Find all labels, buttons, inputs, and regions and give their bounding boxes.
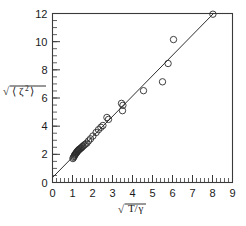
y-tick-label: 4	[41, 120, 47, 132]
x-tick-label: 3	[109, 187, 115, 199]
figure-container: 0123456789 024681012 √ T / γ √ ⟨ ζ 2 ⟩	[0, 0, 246, 226]
y-tick-label: 12	[35, 8, 47, 20]
y-tick-label: 0	[41, 177, 47, 189]
x-axis-major-ticks	[53, 175, 233, 183]
x-tick-label: 5	[149, 187, 155, 199]
data-point	[100, 122, 106, 128]
x-tick-label: 8	[209, 187, 215, 199]
x-axis-denominator: γ	[138, 202, 144, 214]
y-tick-label: 6	[41, 92, 47, 104]
x-tick-label: 4	[129, 187, 135, 199]
x-axis-tick-labels: 0123456789	[49, 187, 235, 199]
y-axis-bracket-close: ⟩	[30, 85, 34, 97]
y-tick-label: 8	[41, 64, 47, 76]
y-axis-tick-labels: 024681012	[35, 8, 47, 189]
x-tick-label: 2	[89, 187, 95, 199]
y-axis-exponent: 2	[25, 84, 29, 93]
y-axis-radical-symbol: √	[3, 85, 10, 97]
data-point	[104, 114, 110, 120]
x-axis-label: √ T / γ	[118, 202, 146, 215]
data-point	[170, 36, 176, 42]
x-tick-label: 7	[189, 187, 195, 199]
data-point	[165, 60, 171, 66]
y-axis-major-ticks	[53, 14, 61, 183]
data-point	[105, 116, 111, 122]
x-tick-label: 0	[49, 187, 55, 199]
x-tick-label: 9	[229, 187, 235, 199]
x-axis-radical-symbol: √	[118, 203, 125, 215]
y-axis-bracket-open: ⟨	[12, 85, 16, 97]
scatter-plot: 0123456789 024681012 √ T / γ √ ⟨ ζ 2 ⟩	[0, 0, 246, 226]
data-point	[140, 87, 146, 93]
x-tick-label: 6	[169, 187, 175, 199]
data-point	[159, 79, 165, 85]
plot-frame	[53, 14, 233, 183]
y-axis-label: √ ⟨ ζ 2 ⟩	[3, 84, 46, 98]
x-axis-minor-ticks	[53, 178, 233, 183]
y-axis-symbol: ζ	[19, 85, 24, 98]
y-tick-label: 2	[41, 148, 47, 160]
x-tick-label: 1	[69, 187, 75, 199]
y-tick-label: 10	[35, 36, 47, 48]
